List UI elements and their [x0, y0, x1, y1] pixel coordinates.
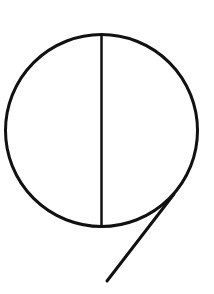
tail-line — [107, 194, 174, 281]
circle-diagram — [0, 0, 214, 294]
